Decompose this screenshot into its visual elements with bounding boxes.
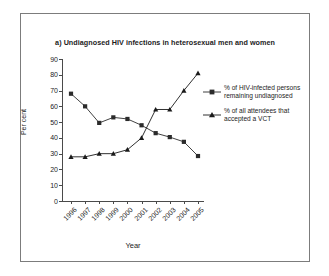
data-point-triangle <box>139 135 144 140</box>
data-point-square <box>97 121 101 125</box>
data-point-square <box>111 115 115 119</box>
data-point-square <box>182 140 186 144</box>
data-point-square <box>125 117 129 121</box>
legend-item-undiagnosed: % of HIV-infected persons remaining undi… <box>203 84 303 101</box>
series-line <box>71 94 198 156</box>
legend-marker-square-icon <box>203 88 221 96</box>
data-point-square <box>69 92 73 96</box>
legend-label-undiagnosed: % of HIV-infected persons remaining undi… <box>224 84 303 101</box>
data-point-square <box>154 131 158 135</box>
legend-item-vct: % of all attendees that accepted a VCT <box>203 107 303 124</box>
figure-page: a) Undiagnosed HIV infections in heteros… <box>0 0 329 276</box>
legend-marker-triangle-icon <box>203 111 221 119</box>
data-point-triangle <box>195 71 200 76</box>
legend-label-vct: % of all attendees that accepted a VCT <box>224 107 303 124</box>
data-point-square <box>83 104 87 108</box>
data-point-square <box>196 154 200 158</box>
series-layer <box>0 0 329 276</box>
data-point-square <box>139 123 143 127</box>
series-line <box>71 73 198 157</box>
data-point-square <box>168 135 172 139</box>
series-vct <box>68 71 200 159</box>
chart-legend: % of HIV-infected persons remaining undi… <box>203 84 303 130</box>
series-undiagnosed <box>69 92 200 159</box>
